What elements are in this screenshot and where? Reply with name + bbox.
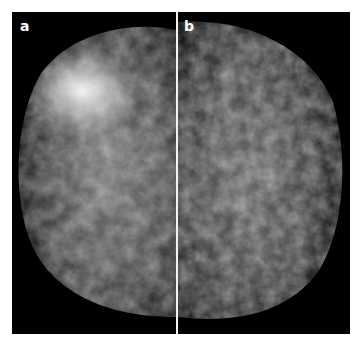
- mammogram-image-a: [12, 12, 176, 334]
- panel-a: a: [12, 12, 176, 334]
- panel-label-b: b: [184, 18, 194, 34]
- panel-label-a: a: [20, 18, 29, 34]
- mammogram-image-b: [178, 12, 350, 334]
- mammogram-figure: a b: [12, 12, 350, 334]
- panel-b: b: [178, 12, 350, 334]
